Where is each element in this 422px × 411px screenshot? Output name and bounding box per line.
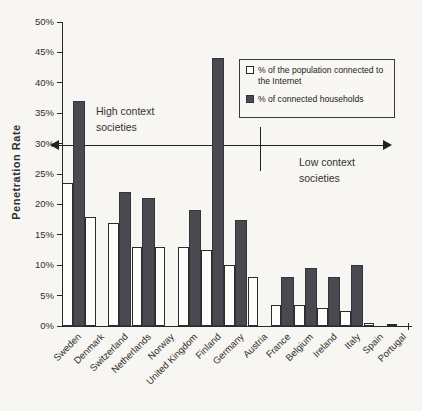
- y-tick-label: 35%: [4, 108, 54, 118]
- bar-households-sweden: [73, 101, 86, 326]
- bar-households-ireland: [328, 277, 341, 326]
- y-tick-label: 5%: [4, 291, 54, 301]
- x-axis-label-austria: Austria: [240, 331, 269, 360]
- y-tick: [57, 113, 62, 114]
- y-tick: [57, 52, 62, 53]
- y-tick-label: 25%: [4, 169, 54, 179]
- legend-item-households: % of connected households: [246, 94, 390, 105]
- bar-population-italy: [340, 311, 351, 326]
- bar-population-portugal: [387, 324, 398, 326]
- legend-swatch-dark-icon: [246, 95, 254, 103]
- y-tick-label: 0%: [4, 321, 54, 331]
- y-tick-label: 20%: [4, 199, 54, 209]
- bar-population-norway: [155, 247, 166, 326]
- legend-swatch-white-icon: [246, 66, 254, 74]
- bar-households-belgium: [305, 268, 318, 326]
- bar-households-finland: [212, 58, 225, 326]
- bar-population-sweden: [62, 183, 73, 326]
- bar-households-italy: [351, 265, 364, 326]
- y-tick-label: 45%: [4, 47, 54, 57]
- bar-households-germany: [235, 220, 248, 326]
- bar-households-france: [281, 277, 294, 326]
- bar-population-switzerland: [108, 223, 119, 326]
- x-axis-line: [62, 326, 412, 327]
- y-tick-label: 50%: [4, 17, 54, 27]
- context-divider-line: [260, 127, 261, 171]
- bar-households-switzerland: [119, 192, 132, 326]
- y-tick-label: 15%: [4, 230, 54, 240]
- legend: % of the population connected to the Int…: [239, 59, 395, 118]
- bar-population-belgium: [294, 305, 305, 326]
- bar-households-netherlands: [142, 198, 155, 326]
- low-context-line2: societies: [299, 170, 355, 186]
- bar-households-united-kingdom: [189, 210, 202, 326]
- bar-population-ireland: [317, 308, 328, 326]
- arrow-right-icon: [383, 140, 392, 150]
- legend-label-households: % of connected households: [258, 94, 364, 105]
- bar-population-finland: [201, 250, 212, 326]
- legend-label-population: % of the population connected to the Int…: [258, 65, 390, 87]
- low-context-annotation: Low context societies: [299, 154, 355, 186]
- y-tick-label: 10%: [4, 260, 54, 270]
- high-context-annotation: High context societies: [96, 103, 154, 135]
- high-context-line2: societies: [96, 119, 154, 135]
- x-axis-label-ireland: Ireland: [310, 331, 338, 359]
- arrow-left-icon: [50, 140, 59, 150]
- high-context-line1: High context: [96, 103, 154, 119]
- bar-population-germany: [224, 265, 235, 326]
- bar-population-austria: [248, 277, 259, 326]
- bar-population-united-kingdom: [178, 247, 189, 326]
- y-tick-label: 40%: [4, 78, 54, 88]
- x-axis-label-italy: Italy: [342, 331, 362, 351]
- bar-population-spain: [364, 323, 375, 326]
- penetration-rate-chart: Penetration Rate High context societies …: [0, 0, 422, 411]
- bar-population-netherlands: [132, 247, 143, 326]
- y-tick-label: 30%: [4, 139, 54, 149]
- y-tick: [57, 174, 62, 175]
- y-tick: [57, 82, 62, 83]
- bar-population-france: [271, 305, 282, 326]
- bar-population-denmark: [85, 217, 96, 326]
- legend-item-population: % of the population connected to the Int…: [246, 65, 390, 87]
- y-tick: [57, 22, 62, 23]
- low-context-line1: Low context: [299, 154, 355, 170]
- x-axis-end-tick: [408, 323, 409, 330]
